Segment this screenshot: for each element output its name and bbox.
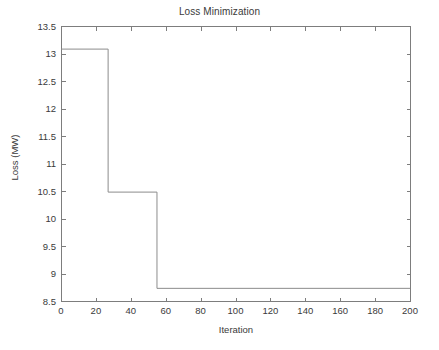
- y-tick-label: 12: [45, 103, 56, 114]
- y-tick-label: 13: [45, 48, 56, 59]
- x-tick-label: 100: [228, 305, 244, 316]
- x-axis-ticks: [62, 27, 411, 302]
- x-tick-label: 120: [262, 305, 278, 316]
- x-tick-label: 0: [58, 305, 63, 316]
- x-tick-label: 80: [195, 305, 206, 316]
- y-tick-label: 13.5: [38, 21, 57, 32]
- x-tick-label: 160: [332, 305, 348, 316]
- y-tick-label: 10.5: [38, 186, 57, 197]
- x-axis-label: Iteration: [61, 324, 411, 335]
- x-tick-label: 20: [91, 305, 102, 316]
- y-tick-label: 9: [51, 268, 56, 279]
- y-axis-label: Loss (MW): [9, 113, 20, 203]
- y-tick-label: 8.5: [43, 296, 56, 307]
- y-axis-tick-labels: 8.599.51010.51111.51212.51313.5: [38, 21, 57, 307]
- y-tick-label: 9.5: [43, 241, 56, 252]
- x-tick-label: 40: [126, 305, 137, 316]
- plot-area: 020406080100120140160180200 8.599.51010.…: [0, 0, 439, 350]
- y-tick-label: 11.5: [38, 131, 56, 142]
- axes-box: [62, 27, 411, 302]
- x-tick-label: 200: [402, 305, 418, 316]
- x-tick-label: 180: [367, 305, 383, 316]
- chart-figure: Loss Minimization 0204060801001201401601…: [0, 0, 439, 350]
- axes-frame: [62, 27, 411, 302]
- y-tick-label: 12.5: [38, 76, 57, 87]
- x-tick-label: 60: [160, 305, 171, 316]
- series-line-loss: [61, 49, 410, 288]
- x-axis-tick-labels: 020406080100120140160180200: [58, 305, 418, 316]
- y-axis-ticks: [62, 27, 411, 302]
- y-tick-label: 10: [45, 213, 56, 224]
- x-tick-label: 140: [297, 305, 313, 316]
- y-tick-label: 11: [46, 158, 56, 169]
- data-series-loss: [61, 49, 410, 288]
